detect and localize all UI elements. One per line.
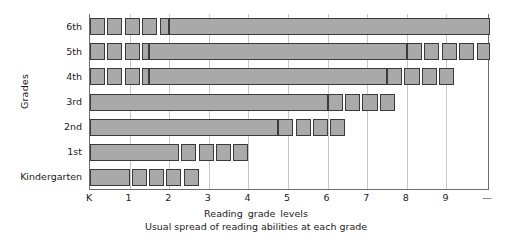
bar-segment: [142, 68, 149, 85]
bar-segment: [387, 68, 402, 85]
bar-row: [90, 94, 490, 111]
x-tick-label: 7: [351, 192, 381, 203]
x-tick-label: 9: [430, 192, 460, 203]
bar-segment: [107, 68, 122, 85]
bar-segment: [107, 43, 122, 60]
bar-segment: [477, 43, 490, 60]
bar-segment: [380, 94, 395, 111]
y-tick-label: 1st: [67, 145, 82, 159]
plot-area: [89, 14, 489, 190]
bar-row: [90, 169, 490, 186]
bar-segment: [422, 68, 437, 85]
bar-segment: [407, 43, 422, 60]
bar-segment: [424, 43, 439, 60]
bar-segment: [199, 144, 214, 161]
x-axis-title: Reading grade levels: [0, 208, 512, 219]
bar-segment: [216, 144, 231, 161]
bar-segment: [90, 169, 130, 186]
bar-segment: [362, 94, 377, 111]
bar-segment: [181, 144, 196, 161]
bar-segment: [345, 94, 360, 111]
bar-segment: [107, 18, 122, 35]
bar-segment: [90, 94, 328, 111]
y-tick-label: 5th: [66, 45, 82, 59]
x-tick-label: 5: [272, 192, 302, 203]
bar-segment: [90, 119, 278, 136]
bar-segment: [142, 18, 157, 35]
bar-row: [90, 18, 490, 35]
bar-segment: [149, 68, 387, 85]
bar-segment: [404, 68, 419, 85]
bar-segment: [296, 119, 311, 136]
bar-segment: [169, 18, 490, 35]
x-tick-label: 3: [193, 192, 223, 203]
bar-segment: [90, 68, 105, 85]
x-tick-label: K: [74, 192, 104, 203]
bar-segment: [328, 94, 343, 111]
x-tick-label: —: [472, 192, 502, 203]
bar-segment: [125, 43, 140, 60]
bar-row: [90, 43, 490, 60]
bar-segment: [90, 18, 105, 35]
bar-segment: [442, 43, 457, 60]
chart-caption: Usual spread of reading abilities at eac…: [0, 221, 512, 232]
bar-row: [90, 119, 490, 136]
y-tick-label: Kindergarten: [20, 170, 82, 184]
bar-segment: [459, 43, 474, 60]
bar-segment: [313, 119, 328, 136]
bar-segment: [125, 68, 140, 85]
x-axis-tick-labels: K123456789—: [89, 192, 489, 206]
y-tick-label: 2nd: [64, 120, 82, 134]
bar-segment: [184, 169, 199, 186]
bar-segment: [160, 18, 170, 35]
bar-row: [90, 144, 490, 161]
bar-segment: [149, 43, 406, 60]
x-tick-label: 8: [391, 192, 421, 203]
bar-segment: [166, 169, 181, 186]
bar-segment: [149, 169, 164, 186]
y-tick-label: 3rd: [66, 95, 82, 109]
bar-row: [90, 68, 490, 85]
bar-segment: [90, 144, 179, 161]
x-tick-label: 1: [114, 192, 144, 203]
bar-segment: [233, 144, 248, 161]
y-axis-tick-labels: 6th5th4th3rd2nd1stKindergarten: [0, 14, 86, 190]
bar-segment: [132, 169, 147, 186]
x-tick-label: 2: [153, 192, 183, 203]
y-tick-label: 4th: [66, 70, 82, 84]
x-tick-label: 4: [232, 192, 262, 203]
bar-segment: [142, 43, 149, 60]
x-tick-label: 6: [312, 192, 342, 203]
y-tick-label: 6th: [66, 20, 82, 34]
bar-segment: [90, 43, 105, 60]
bar-segment: [439, 68, 454, 85]
bar-segment: [330, 119, 345, 136]
reading-levels-chart: Grades 6th5th4th3rd2nd1stKindergarten K1…: [0, 0, 512, 242]
bar-segment: [278, 119, 293, 136]
bar-segment: [125, 18, 140, 35]
